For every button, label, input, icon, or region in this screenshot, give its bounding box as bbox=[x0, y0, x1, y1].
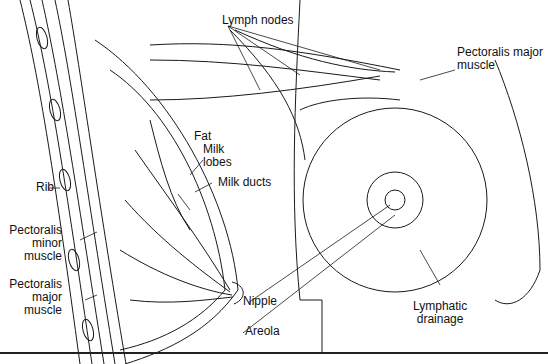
label-milk-ducts: Milk ducts bbox=[218, 176, 271, 189]
label-pectoralis-major-right: Pectoralis major muscle bbox=[457, 46, 543, 72]
label-lymphatic-drainage: Lymphatic drainage bbox=[413, 300, 467, 326]
anatomy-diagram: Lymph nodes Pectoralis major muscle Fat … bbox=[0, 0, 548, 364]
lymph-vessels bbox=[150, 30, 400, 160]
label-lymph-nodes: Lymph nodes bbox=[222, 14, 294, 27]
label-milk-lobes: Milk lobes bbox=[203, 143, 232, 169]
label-pectoralis-major-left: Pectoralis major muscle bbox=[4, 278, 62, 317]
label-pectoralis-minor: Pectoralis minor muscle bbox=[4, 224, 62, 263]
bottom-rule bbox=[0, 352, 548, 354]
label-areola: Areola bbox=[245, 325, 280, 338]
label-nipple: Nipple bbox=[243, 295, 277, 308]
label-rib: Rib bbox=[36, 181, 54, 194]
breast-profile-left bbox=[95, 40, 243, 364]
